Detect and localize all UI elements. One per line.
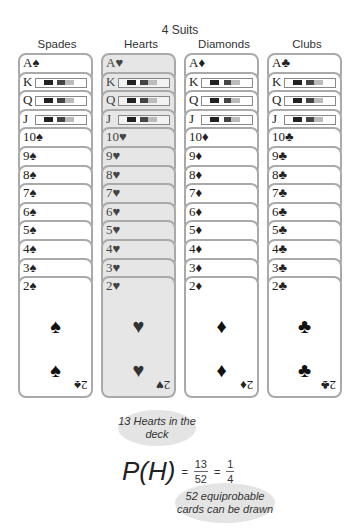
card-rank: 10♥ [106,130,127,144]
card-rank: 8♥ [106,168,120,182]
callout-hearts-count: 13 Hearts in the deck [118,410,196,446]
card-rank: K [106,75,115,89]
suit-pip-icon: ♦ [186,316,257,336]
suit-pip-icon: ♣ [269,316,340,336]
face-card-art [35,78,87,88]
card-rank-inverted: 2♥ [156,377,170,393]
playing-card: 2♥♥♥2♥ [101,276,176,398]
card-rank: 6♦ [189,205,202,219]
column-header-spades: Spades [17,38,97,50]
card-rank: 6♣ [272,205,287,219]
callout-total-cards: 52 equiprobable cards can be drawn [175,483,275,523]
face-card-art [284,78,336,88]
fraction-13-52: 13 52 [194,458,208,485]
card-rank: 2♦ [189,279,202,293]
playing-card: 2♠♠♠2♠ [18,276,93,398]
card-rank: 3♣ [272,261,287,275]
card-rank: 2♥ [106,279,120,293]
card-rank: 9♠ [23,149,36,163]
card-rank: 10♠ [23,130,43,144]
card-rank: A♣ [272,56,290,70]
card-rank: 10♣ [272,130,294,144]
card-rank: 4♦ [189,242,202,256]
card-rank: 4♠ [23,242,36,256]
face-card-art [201,115,253,125]
card-rank: 9♦ [189,149,202,163]
face-card-art [284,115,336,125]
diagram-title: 4 Suits [0,23,360,37]
face-card-art [35,115,87,125]
formula-lhs: P(H) [122,456,175,487]
card-rank: 8♠ [23,168,36,182]
card-rank: 8♣ [272,168,287,182]
equals-sign: = [181,466,187,478]
card-rank: 10♦ [189,130,209,144]
column-header-diamonds: Diamonds [184,38,264,50]
card-rank: 6♥ [106,205,120,219]
card-rank: 7♣ [272,186,287,200]
numerator: 13 [195,458,207,470]
card-rank-inverted: 2♦ [240,377,253,393]
suit-pip-icon: ♥ [103,316,174,336]
card-rank: K [272,75,281,89]
card-rank: 6♠ [23,205,36,219]
card-rank: 2♠ [23,279,36,293]
card-rank: Q [23,93,32,107]
suit-column-clubs: A♣KQJ10♣9♣8♣7♣6♣5♣4♣3♣2♣♣♣2♣ [267,53,344,398]
card-rank: 7♥ [106,186,120,200]
card-rank: Q [189,93,198,107]
column-header-clubs: Clubs [267,38,347,50]
card-rank-inverted: 2♠ [74,377,87,393]
card-rank: 5♥ [106,223,120,237]
card-rank: 9♥ [106,149,120,163]
card-rank: 7♦ [189,186,202,200]
suit-column-spades: A♠KQJ10♠9♠8♠7♠6♠5♠4♠3♠2♠♠♠2♠ [18,53,95,398]
suit-column-hearts: A♥KQJ10♥9♥8♥7♥6♥5♥4♥3♥2♥♥♥2♥ [101,53,178,398]
card-rank: J [272,112,277,126]
card-rank: 9♣ [272,149,287,163]
suit-pip-icon: ♠ [20,316,91,336]
card-rank: 3♠ [23,261,36,275]
suit-column-diamonds: A♦KQJ10♦9♦8♦7♦6♦5♦4♦3♦2♦♦♦2♦ [184,53,261,398]
face-card-art [284,96,336,106]
face-card-art [118,78,170,88]
face-card-art [35,96,87,106]
playing-card: 2♦♦♦2♦ [184,276,259,398]
face-card-art [201,78,253,88]
card-rank: K [189,75,198,89]
card-rank: A♥ [106,56,123,70]
fraction-1-4: 1 4 [226,458,234,485]
card-rank-inverted: 2♣ [321,377,336,393]
card-rank: 2♣ [272,279,287,293]
card-rank: J [106,112,111,126]
equals-sign: = [214,466,220,478]
playing-card: 2♣♣♣2♣ [267,276,342,398]
face-card-art [118,96,170,106]
card-rank: 3♥ [106,261,120,275]
card-rank: 5♠ [23,223,36,237]
card-rank: 7♠ [23,186,36,200]
card-rank: 5♣ [272,223,287,237]
card-rank: Q [106,93,115,107]
card-rank: 3♦ [189,261,202,275]
card-rank: J [23,112,28,126]
column-header-hearts: Hearts [101,38,181,50]
card-rank: 4♥ [106,242,120,256]
card-rank: A♦ [189,56,205,70]
card-rank: Q [272,93,281,107]
card-rank: J [189,112,194,126]
numerator: 1 [227,458,233,470]
face-card-art [201,96,253,106]
denominator: 52 [195,473,207,485]
card-rank: A♠ [23,56,39,70]
face-card-art [118,115,170,125]
card-rank: 8♦ [189,168,202,182]
card-rank: K [23,75,32,89]
card-rank: 5♦ [189,223,202,237]
card-rank: 4♣ [272,242,287,256]
